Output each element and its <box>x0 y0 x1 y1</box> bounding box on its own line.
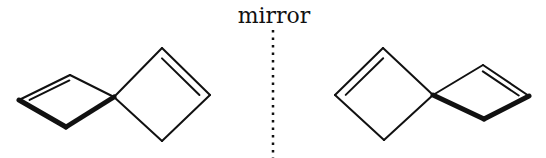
bond-right-enantiomer-front-ring-outer-bottom <box>335 95 384 140</box>
double-bond-left-enantiomer-back-ring <box>30 80 70 100</box>
bond-right-enantiomer-back-ring-spiro-top <box>433 65 483 95</box>
diagram-canvas: mirror <box>0 0 546 158</box>
bond-right-enantiomer-back-ring-outer-bottom <box>484 96 529 119</box>
bond-left-enantiomer-front-ring-bottom-spiro <box>114 97 162 141</box>
bond-left-enantiomer-back-ring-top-outer <box>19 75 70 100</box>
bond-left-enantiomer-back-ring-bottom-spiro <box>66 97 114 127</box>
bond-right-enantiomer-back-ring-bottom-spiro <box>433 95 484 119</box>
mirror-label: mirror <box>229 4 319 28</box>
bond-left-enantiomer-back-ring-outer-bottom <box>19 100 66 127</box>
bond-left-enantiomer-front-ring-spiro-top <box>114 48 162 97</box>
bond-right-enantiomer-front-ring-spiro-top <box>383 48 433 95</box>
bond-left-enantiomer-front-ring-top-outer <box>162 48 210 95</box>
bond-left-enantiomer-back-ring-spiro-top <box>70 75 114 97</box>
bond-right-enantiomer-front-ring-bottom-spiro <box>384 95 433 140</box>
bond-left-enantiomer-front-ring-outer-bottom <box>162 95 210 141</box>
double-bond-right-enantiomer-front-ring <box>346 58 383 95</box>
double-bond-right-enantiomer-back-ring <box>483 71 519 95</box>
bond-right-enantiomer-back-ring-top-outer <box>483 65 529 96</box>
bond-right-enantiomer-front-ring-top-outer <box>335 48 383 95</box>
double-bond-left-enantiomer-front-ring <box>162 58 199 95</box>
